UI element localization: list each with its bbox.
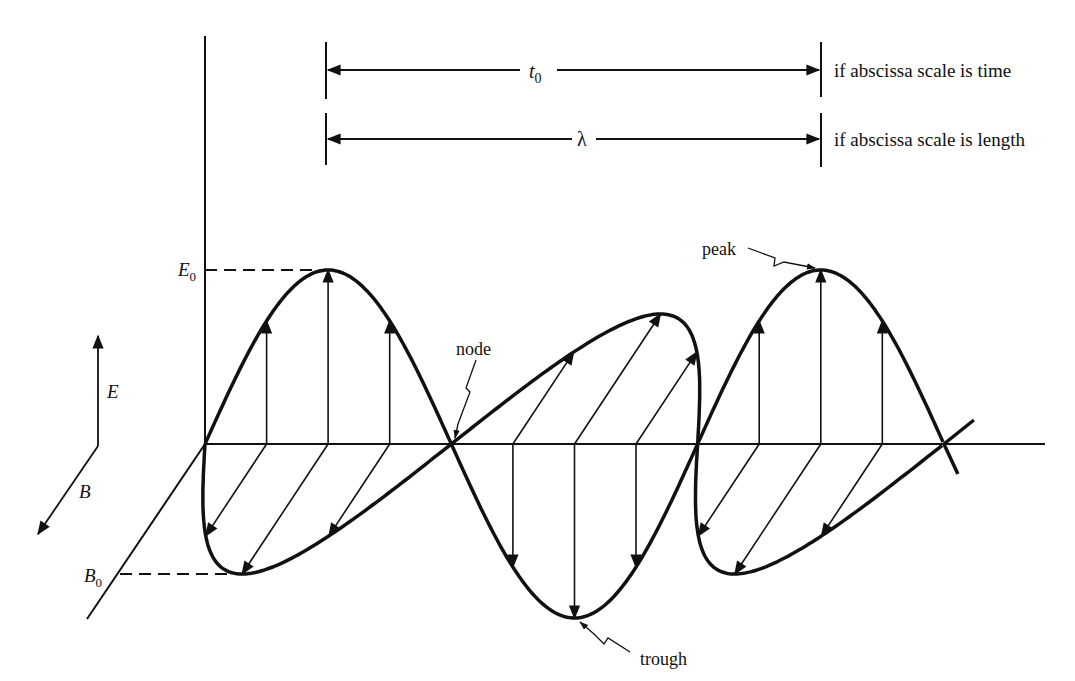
dimension-bars xyxy=(326,42,821,167)
node-label: node xyxy=(456,339,491,359)
electric-field-tail xyxy=(944,444,958,474)
em-wave-diagram: t0 if abscissa scale is time λ if abscis… xyxy=(0,0,1075,681)
axes xyxy=(87,36,1045,619)
b0-label: B0 xyxy=(84,565,102,590)
trough-label: trough xyxy=(640,649,687,669)
period-label: t0 xyxy=(529,60,542,86)
b-axis xyxy=(87,444,205,619)
b-vector xyxy=(636,352,697,444)
magnetic-field-tail xyxy=(944,420,974,444)
wavelength-note: if abscissa scale is length xyxy=(834,129,1026,150)
legend-e-label: E xyxy=(106,381,119,402)
b-vector xyxy=(242,444,328,574)
b-vector xyxy=(329,444,390,536)
wavelength-label: λ xyxy=(577,128,587,150)
b-vector xyxy=(698,444,759,536)
b-vector xyxy=(735,444,821,574)
e0-label: E0 xyxy=(177,259,196,284)
peak-leader xyxy=(748,248,815,268)
period-note: if abscissa scale is time xyxy=(834,60,1011,81)
b-vector xyxy=(575,314,661,444)
b-vector xyxy=(513,352,574,444)
annotation-leaders xyxy=(455,248,815,652)
legend-axes xyxy=(38,336,98,534)
b-vector xyxy=(206,444,267,536)
labels: t0 if abscissa scale is time λ if abscis… xyxy=(79,60,1026,669)
legend-b-label: B xyxy=(79,481,91,502)
trough-leader xyxy=(580,622,630,652)
peak-label: peak xyxy=(702,239,736,259)
b-vector xyxy=(822,444,883,536)
